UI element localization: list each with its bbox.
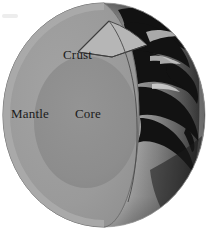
label-mantle: Mantle <box>11 107 49 120</box>
earth-cutaway-figure: Crust Mantle Core <box>0 0 211 231</box>
label-crust: Crust <box>63 48 92 61</box>
core-region <box>34 56 138 188</box>
label-core: Core <box>75 107 101 120</box>
scan-smudge <box>2 14 18 18</box>
